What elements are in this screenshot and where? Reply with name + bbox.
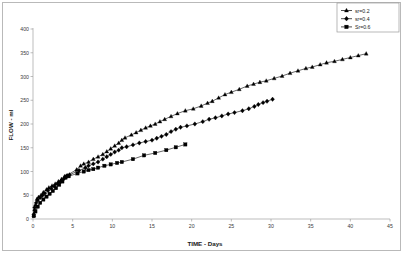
data-point (51, 189, 54, 192)
data-point (117, 148, 121, 152)
legend-label: sr=0.2 (355, 8, 370, 14)
data-point (120, 146, 124, 150)
data-point (61, 180, 64, 183)
data-point (76, 172, 79, 175)
data-point (144, 139, 148, 143)
series-sr-0-4 (32, 97, 275, 216)
data-point (38, 201, 41, 204)
data-point (240, 108, 244, 112)
data-point (45, 195, 48, 198)
data-point (54, 186, 57, 189)
data-point (185, 124, 189, 128)
x-tick-label: 35 (308, 223, 314, 229)
data-point (201, 119, 205, 123)
data-point (109, 152, 113, 156)
y-axis: 050100150200250300350400 (20, 26, 33, 222)
data-point (131, 143, 135, 147)
data-point (96, 160, 100, 164)
data-point (32, 214, 35, 217)
data-point (252, 104, 256, 108)
y-tick-label: 0 (26, 216, 29, 222)
data-point (184, 143, 187, 146)
legend-label: Sr=0.6 (355, 24, 371, 30)
data-point (134, 130, 138, 134)
y-tick-label: 300 (20, 74, 29, 80)
data-point (271, 97, 275, 101)
data-point (210, 99, 214, 103)
x-tick-label: 10 (109, 223, 115, 229)
data-point (265, 99, 269, 103)
data-point (160, 134, 164, 138)
data-point (233, 110, 237, 114)
data-point (42, 198, 45, 201)
data-series-group (32, 52, 368, 218)
series-line (34, 54, 366, 216)
y-axis-title: FLOW - ml (7, 109, 14, 140)
data-point (164, 132, 168, 136)
y-tick-label: 400 (20, 26, 29, 32)
data-point (256, 102, 260, 106)
x-axis-title: TIME - Days (187, 240, 223, 247)
series-line (34, 99, 273, 214)
x-tick-label: 0 (32, 223, 35, 229)
data-point (87, 168, 90, 171)
y-tick-label: 250 (20, 97, 29, 103)
data-point (364, 52, 368, 56)
data-point (139, 128, 143, 132)
x-tick-label: 40 (347, 223, 353, 229)
data-point (155, 136, 159, 140)
data-point (57, 183, 60, 186)
y-tick-label: 150 (20, 145, 29, 151)
data-point (48, 192, 51, 195)
data-point (113, 144, 117, 148)
data-point (179, 125, 183, 129)
y-tick-label: 350 (20, 50, 29, 56)
data-point (115, 161, 118, 164)
data-point (34, 210, 37, 213)
data-point (105, 149, 109, 153)
y-tick-label: 100 (20, 169, 29, 175)
x-tick-label: 25 (228, 223, 234, 229)
data-point (153, 151, 156, 154)
x-tick-label: 15 (149, 223, 155, 229)
data-point (158, 120, 162, 124)
data-point (91, 157, 95, 161)
data-point (103, 164, 106, 167)
data-point (113, 150, 117, 154)
legend-marker-square-icon (345, 25, 349, 29)
data-point (92, 167, 95, 170)
data-point (217, 96, 221, 100)
legend-label: sr=0.4 (355, 16, 370, 22)
data-point (125, 145, 129, 149)
data-point (129, 133, 133, 137)
data-point (109, 147, 113, 151)
data-point (150, 138, 154, 142)
y-tick-label: 200 (20, 121, 29, 127)
data-point (120, 138, 124, 142)
legend[interactable]: sr=0.2sr=0.4Sr=0.6 (337, 3, 399, 32)
data-point (120, 160, 123, 163)
data-point (193, 122, 197, 126)
y-tick-label: 50 (23, 192, 29, 198)
data-point (214, 116, 218, 120)
data-point (105, 155, 109, 159)
x-axis: 051015202530354045 (32, 219, 393, 229)
data-point (64, 176, 67, 179)
plot-svg: 050100150200250300350400 051015202530354… (0, 0, 405, 254)
data-point (96, 155, 100, 159)
x-tick-label: 20 (189, 223, 195, 229)
data-point (36, 205, 39, 208)
data-point (101, 152, 105, 156)
data-point (91, 162, 95, 166)
x-tick-label: 5 (71, 223, 74, 229)
data-point (165, 148, 168, 151)
data-point (247, 107, 251, 111)
data-point (174, 146, 177, 149)
series-sr-0-2 (32, 52, 368, 217)
x-tick-label: 30 (268, 223, 274, 229)
data-point (220, 114, 224, 118)
data-point (174, 127, 178, 131)
data-point (226, 112, 230, 116)
data-point (261, 100, 265, 104)
data-point (142, 154, 145, 157)
